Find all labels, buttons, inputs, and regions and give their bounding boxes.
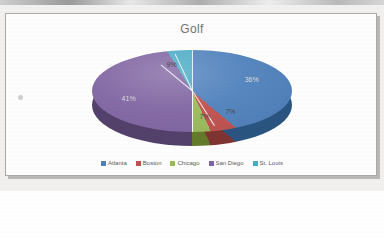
scan-speck [18,95,23,100]
legend-label: Atlanta [108,160,127,166]
pie-chart-object[interactable]: Golf 36%7%7%41%9% AtlantaBostonChicagoSa… [5,13,377,176]
data-label-boston: 7% [225,108,235,115]
data-label-chicago: 7% [199,113,209,120]
legend-swatch-icon [209,161,214,166]
data-label-atlanta: 36% [245,76,259,83]
pie-divider-5 [192,91,193,132]
chart-legend[interactable]: AtlantaBostonChicagoSan DiegoSt. Louis [6,160,378,166]
legend-swatch-icon [101,161,106,166]
legend-item-san-diego[interactable]: San Diego [209,160,244,166]
legend-item-atlanta[interactable]: Atlanta [101,160,127,166]
data-label-san-diego: 41% [122,95,136,102]
legend-item-chicago[interactable]: Chicago [170,160,199,166]
legend-item-boston[interactable]: Boston [136,160,162,166]
scanned-page: Golf 36%7%7%41%9% AtlantaBostonChicagoSa… [0,0,384,191]
legend-label: Boston [143,160,162,166]
legend-swatch-icon [170,161,175,166]
legend-label: St. Louis [260,160,283,166]
legend-label: Chicago [177,160,199,166]
legend-swatch-icon [136,161,141,166]
data-label-st--louis: 9% [167,61,177,68]
pie-divider-3 [192,50,193,91]
pie-graphic: 36%7%7%41%9% [92,50,292,145]
legend-swatch-icon [253,161,258,166]
legend-item-st--louis[interactable]: St. Louis [253,160,283,166]
legend-label: San Diego [216,160,244,166]
chart-title: Golf [6,22,378,36]
